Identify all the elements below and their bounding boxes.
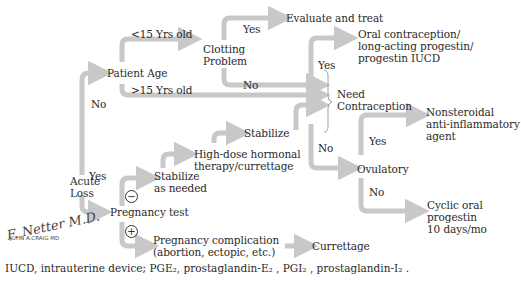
edge-label-gt15: >15 Yrs old [131,84,192,96]
node-evaluate-treat: Evaluate and treat [286,12,383,24]
line: as needed [154,182,207,194]
line: agent [426,130,520,142]
node-high-dose-therapy: High-dose hormonal therapy/currettage [194,148,301,172]
node-ovulatory: Ovulatory [357,163,409,175]
edge-label-ovul-yes: Yes [369,135,386,147]
line: long-acting progestin/ [358,40,473,52]
edge-label-clot-yes: Yes [243,23,260,35]
line: therapy/currettage [194,160,301,172]
positive-result-icon: + [125,225,138,238]
node-stabilize: Stabilize [244,127,289,139]
line: Nonsteroidal [426,106,520,118]
line: 10 days/mo [427,223,487,235]
line: Cyclic oral [427,199,487,211]
node-need-contraception: Need Contraception [337,88,407,112]
edge-label-contra-yes: Yes [318,59,335,71]
line: High-dose hormonal [194,148,301,160]
node-cyclic-progestin: Cyclic oral progestin 10 days/mo [427,199,487,235]
edge-label-clot-no: No [243,79,258,91]
node-pregnancy-test: Pregnancy test [110,206,189,218]
line: (abortion, ectopic, etc.) [153,246,279,258]
node-oral-contraception: Oral contraception/ long-acting progesti… [358,28,473,64]
node-stabilize-as-needed: Stabilize as needed [154,170,207,194]
node-clotting-problem: Clotting Problem [203,43,253,67]
node-patient-age: Patient Age [107,67,167,79]
edge-label-lt15: <15 Yrs old [131,28,192,40]
line: progestin IUCD [358,52,473,64]
negative-result-icon: − [125,190,138,203]
edge-label-acute-no: No [91,98,106,110]
figure-caption: IUCD, intrauterine device; PGE₂, prostag… [5,262,409,274]
line: anti-inflammatory [426,118,520,130]
edge-label-contra-no: No [318,142,333,154]
node-pregnancy-complication: Pregnancy complication (abortion, ectopi… [153,234,279,258]
line: progestin [427,211,487,223]
brace-icon [324,70,332,132]
edge-label-ovul-no: No [369,186,384,198]
line: Pregnancy complication [153,234,279,246]
line: Oral contraception/ [358,28,473,40]
artist-signature: F. Netter M.D. JOHN A.CRAIG MD [6,218,100,241]
edge-label-acute-yes: Yes [89,170,106,182]
node-currettage: Currettage [312,240,370,252]
node-nsaid: Nonsteroidal anti-inflammatory agent [426,106,520,142]
